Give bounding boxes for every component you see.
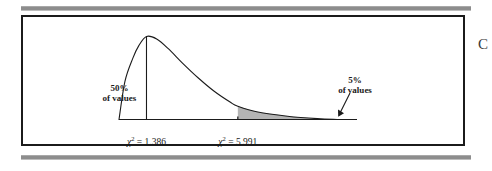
margin-text-fragment: C bbox=[478, 36, 488, 53]
top-horizontal-rule bbox=[21, 6, 471, 11]
tail-callout-arrow bbox=[338, 93, 350, 117]
median-value-text: = 1.386 bbox=[137, 137, 166, 147]
distribution-curve bbox=[119, 36, 337, 119]
chi-superscript-median: 2 bbox=[131, 135, 134, 142]
median-area-annotation: 50% of values bbox=[88, 83, 150, 103]
median-axis-label: χ2 = 1.386 bbox=[103, 135, 189, 148]
figure-frame: 50% of values 5% of values χ2 = 1.386 χ2… bbox=[21, 15, 465, 146]
tail-area-annotation-line1: 5% bbox=[315, 75, 395, 85]
median-area-annotation-line1: 50% bbox=[88, 83, 150, 93]
critical-axis-label: χ2 = 5.991 bbox=[195, 135, 281, 148]
figure-page: 50% of values 5% of values χ2 = 1.386 χ2… bbox=[0, 0, 492, 171]
chi-superscript-critical: 2 bbox=[223, 135, 226, 142]
median-area-annotation-line2: of values bbox=[88, 93, 150, 103]
tail-area-annotation: 5% of values bbox=[315, 75, 395, 95]
tail-area-annotation-line2: of values bbox=[315, 85, 395, 95]
bottom-horizontal-rule bbox=[21, 155, 471, 160]
critical-value-text: = 5.991 bbox=[228, 137, 257, 147]
